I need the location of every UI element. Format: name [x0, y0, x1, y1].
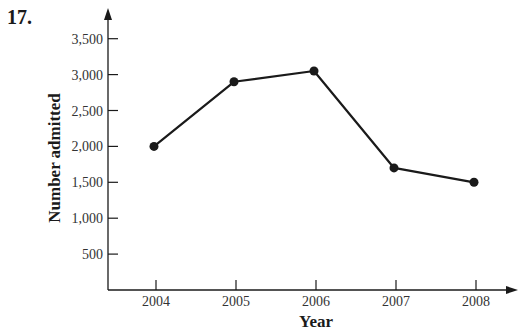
data-point-marker: [470, 178, 479, 187]
y-axis-arrow-icon: [104, 8, 112, 20]
data-point-marker: [150, 142, 159, 151]
data-series: [150, 67, 479, 187]
x-tick-label: 2004: [142, 294, 170, 309]
y-tick-label: 500: [82, 247, 103, 262]
x-tick-label: 2005: [222, 294, 250, 309]
y-axis-title: Number admitted: [45, 93, 64, 223]
data-line: [154, 71, 474, 182]
x-axis-ticks: 20042005200620072008: [142, 280, 490, 309]
y-tick-label: 2,500: [72, 104, 104, 119]
x-tick-label: 2008: [462, 294, 490, 309]
x-axis-title: Year: [299, 312, 333, 331]
y-tick-label: 1,500: [72, 175, 104, 190]
data-point-marker: [310, 67, 319, 76]
y-tick-label: 3,500: [72, 32, 104, 47]
line-chart: 5001,0001,5002,0002,5003,0003,500 200420…: [0, 0, 519, 334]
y-tick-label: 2,000: [72, 139, 104, 154]
data-point-marker: [230, 77, 239, 86]
x-tick-label: 2007: [382, 294, 410, 309]
x-tick-label: 2006: [302, 294, 330, 309]
axes: [104, 8, 518, 294]
y-tick-label: 1,000: [72, 211, 104, 226]
y-axis-ticks: 5001,0001,5002,0002,5003,0003,500: [72, 32, 119, 262]
data-point-marker: [390, 163, 399, 172]
y-tick-label: 3,000: [72, 68, 104, 83]
x-axis-arrow-icon: [506, 286, 518, 294]
